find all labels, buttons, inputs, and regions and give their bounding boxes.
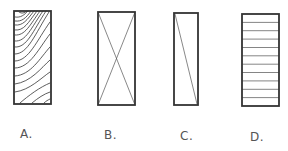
label-c: C.: [180, 130, 193, 142]
label-a: A.: [20, 128, 33, 140]
panel-b-x-cross-symbol: [98, 12, 135, 105]
panel-c-single-diagonal-symbol: [174, 13, 198, 105]
label-d: D.: [250, 131, 264, 143]
section-symbols-figure: [0, 0, 288, 151]
panel-a-wood-grain-symbol: [14, 11, 51, 104]
panel-d-horizontal-hatch-symbol: [242, 14, 279, 106]
label-b: B.: [104, 129, 117, 141]
